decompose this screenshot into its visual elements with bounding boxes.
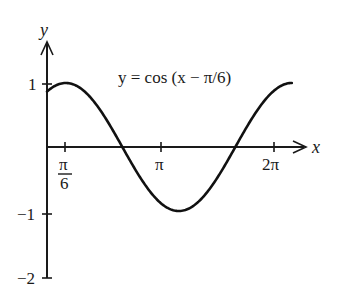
y-tick-label-1: 1: [28, 75, 37, 94]
x-axis-label: x: [311, 137, 320, 157]
equation-annotation: y = cos (x − π/6): [118, 68, 231, 87]
x-tick-label-pi6-num: π: [59, 155, 68, 174]
y-axis-label: y: [38, 20, 48, 40]
x-tick-label-pi6-den: 6: [60, 174, 69, 193]
x-tick-label-2pi: 2π: [262, 155, 280, 174]
y-tick-label-m1: −1: [17, 205, 35, 224]
y-tick-label-m2: −2: [17, 269, 35, 288]
x-tick-label-pi: π: [155, 155, 164, 174]
chart-canvas: y x 1 −1 −2 π 6 π 2π y = cos (x − π/6): [0, 0, 337, 299]
